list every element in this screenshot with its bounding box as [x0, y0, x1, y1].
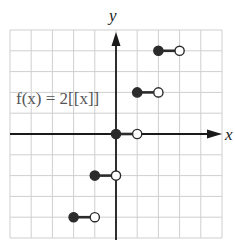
- step-segment: [111, 129, 141, 138]
- step-segment: [69, 213, 99, 222]
- x-axis-label: x: [224, 125, 233, 144]
- closed-endpoint-icon: [154, 46, 163, 55]
- open-endpoint-icon: [133, 129, 142, 138]
- closed-endpoint-icon: [69, 213, 78, 222]
- y-axis-label: y: [107, 6, 117, 25]
- step-segment: [133, 88, 163, 97]
- function-label: f(x) = 2[[x]]: [16, 89, 99, 108]
- step-function-graph: x y f(x) = 2[[x]]: [0, 0, 235, 252]
- open-endpoint-icon: [175, 46, 184, 55]
- step-segment: [154, 46, 184, 55]
- x-axis-arrow-icon: [207, 130, 222, 139]
- open-endpoint-icon: [111, 171, 120, 180]
- closed-endpoint-icon: [111, 129, 120, 138]
- closed-endpoint-icon: [133, 88, 142, 97]
- y-axis-arrow-icon: [112, 32, 121, 46]
- step-segment: [90, 171, 120, 180]
- closed-endpoint-icon: [90, 171, 99, 180]
- open-endpoint-icon: [154, 88, 163, 97]
- open-endpoint-icon: [90, 213, 99, 222]
